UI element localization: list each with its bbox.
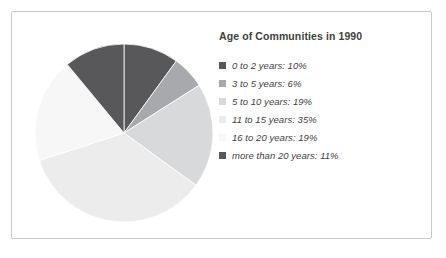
chart-title: Age of Communities in 1990	[219, 30, 419, 42]
legend-color-swatch	[219, 116, 226, 123]
legend-color-swatch	[219, 80, 226, 87]
legend-color-swatch	[219, 152, 226, 159]
pie-slice-group	[35, 44, 213, 222]
legend-color-swatch	[219, 134, 226, 141]
legend-item-label: 5 to 10 years: 19%	[232, 96, 312, 107]
legend-item-label: 11 to 15 years: 35%	[232, 114, 317, 125]
legend-item: more than 20 years: 11%	[219, 146, 419, 164]
legend-color-swatch	[219, 98, 226, 105]
legend-block: Age of Communities in 1990 0 to 2 years:…	[219, 30, 419, 164]
legend-item: 16 to 20 years: 19%	[219, 128, 419, 146]
legend-item: 3 to 5 years: 6%	[219, 74, 419, 92]
pie-chart	[34, 43, 214, 223]
pie-chart-svg	[34, 43, 214, 223]
chart-figure: Age of Communities in 1990 0 to 2 years:…	[0, 0, 446, 258]
legend-item-label: 0 to 2 years: 10%	[232, 60, 307, 71]
legend-item: 0 to 2 years: 10%	[219, 56, 419, 74]
legend-color-swatch	[219, 62, 226, 69]
legend-item: 11 to 15 years: 35%	[219, 110, 419, 128]
legend-item-label: 3 to 5 years: 6%	[232, 78, 301, 89]
legend-item-label: more than 20 years: 11%	[232, 150, 339, 161]
legend-list: 0 to 2 years: 10%3 to 5 years: 6%5 to 10…	[219, 56, 419, 164]
legend-item-label: 16 to 20 years: 19%	[232, 132, 317, 143]
legend-item: 5 to 10 years: 19%	[219, 92, 419, 110]
